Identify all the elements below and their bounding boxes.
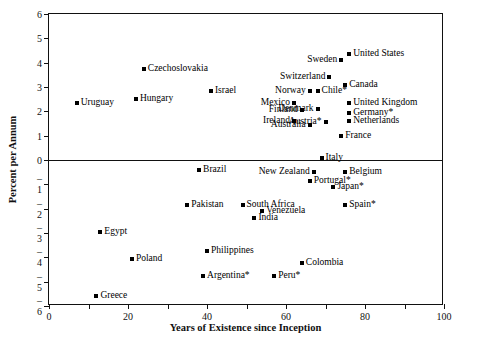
y-axis-tick [44,209,49,210]
data-point-marker [201,274,205,278]
data-point-marker [98,230,102,234]
data-point-marker [209,89,213,93]
data-point-marker [308,179,312,183]
y-axis-tick [44,233,49,234]
plot-area: 6543210–1–2–3–4–5–6020406080100United St… [48,13,443,305]
data-point-marker [339,134,343,138]
data-point-marker [347,52,351,56]
data-point-marker [339,58,343,62]
data-point-marker [241,203,245,207]
data-point-marker [252,216,256,220]
data-point-label: Argentina* [207,271,250,281]
x-axis-tick-label: 20 [123,311,133,322]
data-point-label: Czechoslovakia [148,64,208,74]
y-axis-tick [44,38,49,39]
x-axis-tick-label: 40 [202,311,212,322]
data-point-label: New Zealand [259,167,310,177]
y-axis-tick [44,87,49,88]
data-point-marker [134,97,138,101]
x-axis-tick [286,304,287,309]
data-point-marker [347,111,351,115]
data-point-label: Egypt [104,227,127,237]
data-point-marker [272,274,276,278]
y-axis-tick-label: –2 [37,198,42,220]
y-axis-tick-label: –4 [37,246,42,268]
data-point-label: Philippines [211,247,254,257]
data-point-marker [316,89,320,93]
data-point-marker [94,294,98,298]
data-point-label: Israel [215,86,236,96]
data-point-label: United States [353,49,404,59]
data-point-label: Pakistan [191,200,223,210]
y-axis-tick-label: 5 [37,33,42,44]
x-axis-tick [365,304,366,309]
x-axis-tick-label: 80 [360,311,370,322]
x-axis-tick [405,304,406,309]
y-axis-tick-label: 0 [37,155,42,166]
y-axis-tick-label: –5 [37,271,42,293]
y-axis-tick-label: 1 [37,130,42,141]
data-point-label: Italy [326,153,343,163]
x-axis-tick [207,304,208,309]
y-axis-tick-label: 6 [37,9,42,20]
y-axis-tick [44,111,49,112]
x-axis-tick-label: 100 [437,311,452,322]
x-axis-tick [168,304,169,309]
data-point-label: Hungary [140,94,173,104]
data-point-label: Uruguay [81,98,114,108]
data-point-marker [130,257,134,261]
y-axis-tick [44,257,49,258]
y-axis-tick [44,14,49,15]
y-axis-tick-label: –3 [37,222,42,244]
x-axis-title: Years of Existence since Inception [48,322,443,333]
y-axis-tick-label: –6 [37,295,42,317]
x-axis-tick-label: 0 [47,311,52,322]
data-point-marker [185,203,189,207]
data-point-marker [308,89,312,93]
data-point-label: Poland [136,254,162,264]
data-point-label: Australia [271,120,306,130]
x-axis-tick [89,304,90,309]
data-point-label: Switzerland [280,73,325,83]
data-point-label: Greece [100,292,127,302]
y-axis-tick [44,160,49,161]
data-point-label: India [258,214,278,224]
data-point-marker [343,203,347,207]
data-point-label: Peru* [278,271,300,281]
data-point-marker [343,170,347,174]
data-point-label: Belgium [349,167,382,177]
data-point-label: Spain* [349,200,375,210]
data-point-label: Colombia [306,259,343,269]
zero-reference-line [49,160,442,161]
data-point-marker [308,123,312,127]
x-axis-tick [128,304,129,309]
y-axis-tick [44,184,49,185]
x-axis-tick [247,304,248,309]
data-point-marker [316,107,320,111]
data-point-label: Netherlands [353,116,399,126]
data-point-marker [75,101,79,105]
y-axis-tick-label: 2 [37,106,42,117]
y-axis-tick [44,136,49,137]
data-point-label: France [345,131,371,141]
y-axis-tick [44,282,49,283]
data-point-marker [347,119,351,123]
data-point-marker [327,75,331,79]
data-point-marker [300,108,304,112]
data-point-label: Chile* [322,86,347,96]
data-point-marker [142,67,146,71]
data-point-label: Sweden [307,55,337,65]
data-point-marker [300,261,304,265]
y-axis-tick-label: –1 [37,173,42,195]
data-point-marker [197,168,201,172]
y-axis-tick-label: 3 [37,82,42,93]
data-point-label: Norway [275,86,306,96]
data-point-marker [347,101,351,105]
y-axis-tick [44,63,49,64]
data-point-marker [320,156,324,160]
data-point-label: Finland [269,105,298,115]
data-point-label: Brazil [203,165,226,175]
data-point-label: Canada [349,80,378,90]
data-point-marker [324,120,328,124]
scatter-chart-figure: Percent per Annum 6543210–1–2–3–4–5–6020… [0,0,481,340]
